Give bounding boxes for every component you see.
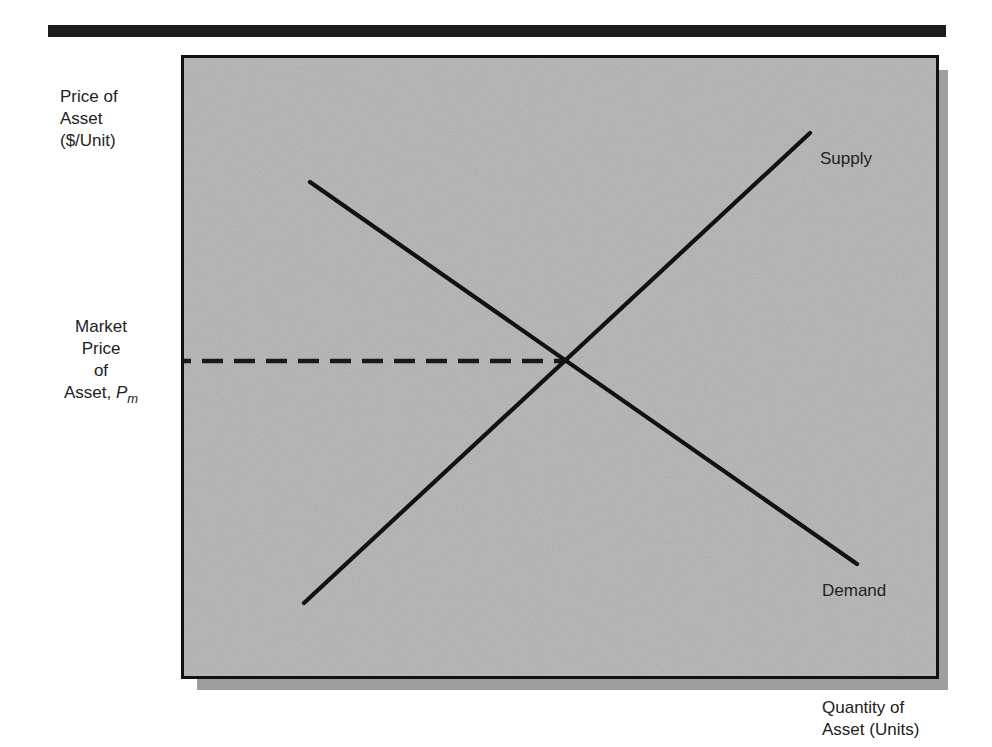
y-axis-label-line-3: ($/Unit) [60, 130, 150, 152]
y-axis-label-line-1: Price of [60, 86, 150, 108]
y-axis-label-line-2: Asset [60, 108, 150, 130]
market-price-label-line-4: Asset, Pm [48, 382, 154, 410]
market-price-symbol: Pm [116, 383, 138, 402]
x-axis-label-line-1: Quantity of [822, 697, 919, 719]
demand-label: Demand [822, 580, 886, 602]
market-price-prefix: Asset, [64, 383, 116, 402]
market-price-label-line-2: Price [48, 338, 154, 360]
x-axis-label: Quantity of Asset (Units) [822, 697, 919, 741]
top-rule [48, 25, 946, 37]
market-price-subscript: m [127, 391, 138, 406]
x-axis-label-line-2: Asset (Units) [822, 719, 919, 741]
market-price-label-line-3: of [48, 360, 154, 382]
supply-label: Supply [820, 148, 872, 170]
y-axis-label: Price of Asset ($/Unit) [60, 86, 150, 152]
market-price-label: Market Price of Asset, Pm [48, 316, 154, 410]
market-price-label-line-1: Market [48, 316, 154, 338]
